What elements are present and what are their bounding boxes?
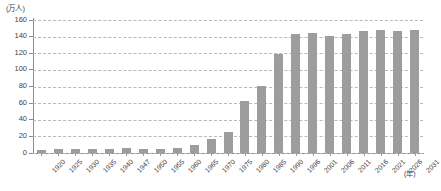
- x-axis-tick: [228, 153, 229, 156]
- x-axis-tick: [41, 153, 42, 156]
- x-axis-tick-label: 1930: [85, 158, 102, 175]
- bar: [359, 31, 368, 152]
- y-axis-tick-label: 40: [19, 114, 27, 124]
- bar: [207, 139, 216, 152]
- x-axis-tick-label: 1990: [288, 158, 305, 175]
- x-axis-tick: [211, 153, 212, 156]
- x-axis-tick-label: 1996: [305, 158, 322, 175]
- x-axis-tick: [143, 153, 144, 156]
- y-axis-tick: [29, 86, 33, 87]
- y-axis-tick-label: 140: [14, 31, 27, 41]
- y-axis-tick-label: 20: [19, 131, 27, 141]
- x-axis-tick: [398, 153, 399, 156]
- x-axis-tick: [330, 153, 331, 156]
- y-axis-tick: [29, 136, 33, 137]
- bar: [224, 132, 233, 153]
- x-axis-tick-label: 1975: [238, 158, 255, 175]
- x-axis-tick: [194, 153, 195, 156]
- x-axis-tick: [92, 153, 93, 156]
- x-axis-tick: [262, 153, 263, 156]
- x-axis-tick: [279, 153, 280, 156]
- x-axis-tick: [160, 153, 161, 156]
- x-axis-tick: [415, 153, 416, 156]
- y-axis-tick: [29, 53, 33, 54]
- bar: [325, 36, 334, 152]
- x-axis-tick: [126, 153, 127, 156]
- x-axis-tick: [347, 153, 348, 156]
- x-axis-tick-label: 1920: [51, 158, 68, 175]
- x-axis-tick: [177, 153, 178, 156]
- bar: [410, 30, 419, 152]
- y-axis-tick: [29, 153, 33, 154]
- x-axis-tick: [109, 153, 110, 156]
- x-axis-tick-label: 2006: [339, 158, 356, 175]
- x-axis-tick: [75, 153, 76, 156]
- bar: [257, 86, 266, 153]
- x-axis-tick-label: 1980: [255, 158, 272, 175]
- x-axis-tick-label: 1970: [221, 158, 238, 175]
- gridline: [33, 20, 423, 21]
- x-axis-tick-label: 1950: [153, 158, 170, 175]
- bar: [291, 34, 300, 152]
- plot-area: 160140120100806040200: [33, 20, 423, 153]
- x-axis-tick-label: 1940: [119, 158, 136, 175]
- y-axis-tick: [29, 119, 33, 120]
- x-axis-tick-label: 1955: [170, 158, 187, 175]
- y-axis-tick: [29, 36, 33, 37]
- bar: [240, 101, 249, 153]
- x-axis-tick-label: 2031: [424, 158, 441, 175]
- x-axis-tick: [313, 153, 314, 156]
- y-axis-tick-label: 160: [14, 15, 27, 25]
- x-axis-tick-label: 2001: [322, 158, 339, 175]
- x-axis-tick-label: 1925: [68, 158, 85, 175]
- x-axis-tick: [58, 153, 59, 156]
- y-axis-tick-label: 60: [19, 98, 27, 108]
- x-axis-tick: [364, 153, 365, 156]
- y-axis-tick: [29, 20, 33, 21]
- bar: [308, 33, 317, 153]
- y-axis-tick-label: 0: [23, 148, 27, 158]
- y-axis-tick: [29, 103, 33, 104]
- x-axis-tick-label: 1960: [187, 158, 204, 175]
- x-axis-tick-label: 2016: [373, 158, 390, 175]
- x-axis-tick-label: 1985: [271, 158, 288, 175]
- x-axis-unit-label: (年): [404, 170, 416, 178]
- x-axis-tick-label: 1947: [136, 158, 153, 175]
- x-axis-tick: [245, 153, 246, 156]
- y-axis-tick-label: 120: [14, 48, 27, 58]
- x-axis-tick-label: 1935: [102, 158, 119, 175]
- bar: [190, 145, 199, 152]
- y-axis-tick: [29, 69, 33, 70]
- bar: [342, 34, 351, 153]
- x-axis-tick: [381, 153, 382, 156]
- y-axis-unit-label: (万人): [6, 4, 25, 13]
- bar: [376, 30, 385, 152]
- y-axis-tick-label: 100: [14, 64, 27, 74]
- x-axis-tick-label: 1965: [204, 158, 221, 175]
- x-axis-tick: [296, 153, 297, 156]
- bar: [274, 54, 283, 153]
- x-axis-tick-label: 2011: [356, 158, 372, 174]
- bar: [393, 31, 402, 152]
- y-axis-tick-label: 80: [19, 81, 27, 91]
